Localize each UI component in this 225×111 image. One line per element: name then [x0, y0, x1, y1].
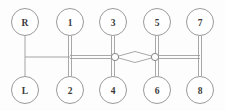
node-2[interactable]: 2 [57, 77, 84, 104]
node-6[interactable]: 6 [144, 77, 171, 104]
diagram-canvas: R 1 3 5 7 L [0, 0, 225, 111]
node-L[interactable]: L [12, 77, 39, 104]
junction-nodes-group [111, 53, 158, 60]
node-3-circle[interactable] [100, 9, 127, 36]
node-8[interactable]: 8 [187, 77, 214, 104]
node-6-circle[interactable] [144, 77, 171, 104]
node-1-circle[interactable] [57, 9, 84, 36]
node-R-circle[interactable] [12, 9, 39, 36]
horizontal-link-5-7 [155, 56, 200, 59]
node-4[interactable]: 4 [100, 77, 127, 104]
node-R[interactable]: R [12, 9, 39, 36]
junction-node-left[interactable] [111, 53, 118, 60]
node-5[interactable]: 5 [144, 9, 171, 36]
node-2-circle[interactable] [57, 77, 84, 104]
node-3[interactable]: 3 [100, 9, 127, 36]
node-7[interactable]: 7 [187, 9, 214, 36]
junction-node-right[interactable] [151, 53, 158, 60]
node-1[interactable]: 1 [57, 9, 84, 36]
vertical-link-7-8 [199, 36, 202, 77]
node-5-circle[interactable] [144, 9, 171, 36]
network-diagram: R 1 3 5 7 L [0, 0, 225, 111]
node-7-circle[interactable] [187, 9, 214, 36]
vertical-link-1-2 [69, 36, 72, 77]
node-L-circle[interactable] [12, 77, 39, 104]
horizontal-link-1-3 [70, 56, 115, 59]
node-8-circle[interactable] [187, 77, 214, 104]
node-4-circle[interactable] [100, 77, 127, 104]
lens-branch-link [115, 52, 155, 63]
